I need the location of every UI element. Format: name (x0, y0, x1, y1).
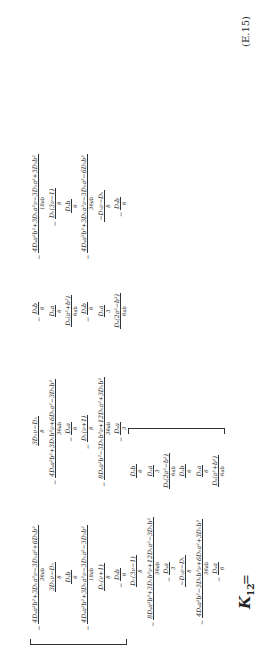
fraction: Dₛ(a²+b²)6ab (211, 455, 225, 487)
numerator: 4Dₛa²b²+3Dₕb²ν+6Dₕa²−3Dₕb² (48, 379, 56, 478)
matrix-label: K12 (236, 583, 256, 609)
matrix-entry: −Dₛb6 (80, 302, 94, 322)
matrix-entry: Dₛ(a²+b²)6ab (64, 295, 78, 329)
matrix-entry: −Dₛa3 (162, 562, 176, 582)
denominator: 3 (154, 469, 160, 472)
denominator: 6 (219, 567, 225, 570)
denominator: 3 (121, 427, 127, 430)
fraction: 4Dₛa²b²+3Dₕa²ν−3Dₕa²−6Dₕb²36ab (80, 154, 94, 252)
numerator: Dₛa (211, 562, 219, 575)
fraction: −Dₕν−Dₕ8 (178, 555, 192, 586)
numerator: Dₛb (80, 302, 88, 315)
equation-number: (E.15) (240, 16, 251, 47)
matrix-entry: Dₛ(2a²−b²)6ab (113, 293, 127, 331)
entry-sign: − (35, 255, 42, 260)
denominator: 8 (137, 569, 143, 572)
matrix-entry: Dₛa3 (97, 305, 111, 320)
right-bracket (128, 428, 225, 434)
entry-sign: − (84, 255, 91, 260)
entry-sign: − (215, 577, 222, 582)
matrix-column-5: Dₕ(3ν−1)8−8Dₛa²b²+3Dₕb²ν+12Dₕa²−3Dₕb²36a… (128, 507, 226, 637)
matrix-entry: −Dₛa6 (211, 562, 225, 582)
matrix-entry: −4Dₛa²b²+3Dₕa²ν−3Dₕa²+3Dₕb²18ab (31, 154, 45, 260)
numerator: 3Dₕν−Dₕ (48, 562, 56, 592)
fraction: 4Dₛa²b²+3Dₕa²ν−3Dₕa²−3Dₕb²18ab (80, 525, 94, 623)
numerator: Dₛb (129, 465, 137, 478)
matrix-entry: −Dₛb6 (113, 197, 127, 217)
matrix-entry: −Dₛb6 (31, 302, 45, 322)
denominator: 6 (72, 575, 78, 578)
denominator: 8 (105, 204, 111, 207)
matrix-entry: Dₛb6 (129, 465, 143, 480)
denominator: 6 (56, 309, 62, 312)
fraction: Dₛb6 (31, 302, 45, 315)
denominator: 6 (121, 202, 127, 205)
matrix-entry: Dₛb6 (178, 465, 192, 480)
matrix-column-6: Dₛb6Dₛa3Dₛ(2a²−b²)6abDₛb6Dₛa6Dₛ(a²+b²)6a… (128, 437, 226, 507)
matrix-entry: Dₛb6 (64, 200, 78, 215)
entry-sign: − (84, 317, 91, 322)
matrix-entry: Dₛb6 (64, 571, 78, 586)
denominator: 6 (203, 469, 209, 472)
numerator: Dₕ(3ν−1) (129, 555, 137, 586)
fraction: Dₛb6 (113, 568, 127, 581)
numerator: 4Dₛa²b²−3Dₕb²ν+6Dₕa²+3Dₕb² (195, 519, 203, 618)
matrix-entry: −Dₛa3 (113, 422, 127, 442)
denominator: 8 (88, 427, 94, 430)
denominator: 36ab (154, 562, 160, 575)
fraction: −Dₕν−Dₕ8 (97, 190, 111, 221)
denominator: 6ab (72, 306, 78, 316)
matrix-column-2: 3Dₕν−Dₕ8−4Dₛa²b²+3Dₕb²ν+6Dₕa²−3Dₕb²36ab−… (30, 367, 128, 497)
entry-sign: − (84, 626, 91, 631)
matrix-entry: −4Dₛa²b²+3Dₕb²ν+6Dₕa²−3Dₕb²36ab (48, 379, 62, 485)
entry-sign: − (198, 620, 205, 625)
matrix-entry: −8Dₛa²b²−3Dₕb²ν+12Dₕa²+3Dₕb²36ab (97, 377, 111, 487)
matrix-entry: Dₕ(3ν−1)8 (129, 555, 143, 588)
denominator: 3 (105, 309, 111, 312)
numerator: Dₛa (97, 305, 105, 318)
fraction: Dₕ(3ν−1)8 (48, 188, 62, 219)
numerator: Dₛa (195, 465, 203, 478)
fraction: Dₛb6 (64, 200, 78, 213)
numerator: Dₛa (113, 422, 121, 435)
numerator: Dₛb (178, 465, 186, 478)
denominator: 6 (72, 427, 78, 430)
numerator: 8Dₛa²b²−3Dₕb²ν+12Dₕa²+3Dₕb² (97, 377, 105, 480)
entry-sign: − (117, 437, 124, 442)
denominator: 8 (186, 569, 192, 572)
matrix-entry: Dₛa6 (195, 465, 209, 480)
matrix-entry: −4Dₛa²b²+3Dₕa²ν−3Dₕa²−6Dₕb²36ab (80, 154, 94, 260)
entry-sign: − (67, 437, 74, 442)
fraction: Dₛb6 (80, 302, 94, 315)
fraction: Dₛb6 (178, 465, 192, 478)
fraction: 3Dₕν−Dₕ8 (48, 562, 62, 592)
denominator: 36ab (39, 568, 45, 581)
numerator: Dₛa (146, 465, 154, 478)
entry-sign: − (35, 317, 42, 322)
fraction: Dₛa6 (64, 422, 78, 435)
entry-sign: − (117, 212, 124, 217)
matrix-column-4: −4Dₛa²b²+3Dₕa²ν−3Dₕa²+3Dₕb²18ab−Dₕ(3ν−1)… (30, 142, 128, 272)
denominator: 18ab (88, 568, 94, 581)
fraction: Dₛa3 (146, 465, 160, 478)
entry-sign: − (165, 577, 172, 582)
matrix-entry: Dₛ(2a²−b²)6ab (162, 453, 176, 491)
denominator: 36ab (88, 197, 94, 210)
denominator: 8 (56, 202, 62, 205)
numerator: Dₛb (113, 568, 121, 581)
entry-sign: − (100, 482, 107, 487)
denominator: 8 (105, 575, 111, 578)
denominator: 6ab (170, 466, 176, 476)
entry-sign: − (117, 583, 124, 588)
denominator: 6 (88, 307, 94, 310)
matrix-entry: −Dₕ(ν+1)8 (80, 415, 94, 450)
denominator: 8 (39, 429, 45, 432)
fraction: Dₛa3 (162, 562, 176, 575)
numerator: Dₛa (48, 305, 56, 318)
numerator: 8Dₛa²b²+3Dₕb²ν+12Dₕa²−3Dₕb² (146, 517, 154, 620)
numerator: 4Dₛa²b²+3Dₕa²ν−3Dₕa²−6Dₕb² (80, 154, 88, 252)
numerator: −Dₕν−Dₕ (97, 190, 105, 221)
entry-sign: − (51, 480, 58, 485)
denominator: 36ab (203, 562, 209, 575)
lhs-subscript: 12 (246, 583, 256, 596)
